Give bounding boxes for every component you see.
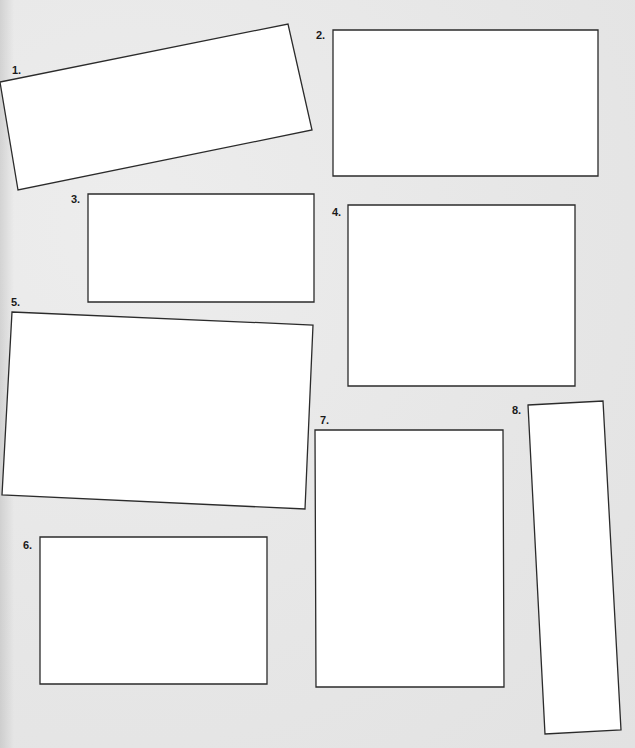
box-outline[interactable]: [0, 24, 312, 190]
box-number-label: 7.: [320, 414, 329, 426]
box-outline[interactable]: [315, 430, 504, 687]
answer-box-4[interactable]: 4.: [332, 205, 575, 386]
answer-box-7[interactable]: 7.: [315, 414, 504, 687]
box-outline[interactable]: [40, 537, 267, 684]
worksheet-canvas: 1. 2. 3. 4. 5. 6. 7. 8.: [0, 0, 635, 748]
answer-box-1[interactable]: 1.: [0, 24, 312, 190]
answer-box-5[interactable]: 5.: [2, 296, 313, 509]
box-outline[interactable]: [528, 401, 621, 734]
box-outline[interactable]: [348, 205, 575, 386]
box-outline[interactable]: [88, 194, 314, 302]
answer-box-8[interactable]: 8.: [512, 401, 621, 734]
box-number-label: 6.: [23, 539, 32, 551]
box-number-label: 3.: [71, 193, 80, 205]
worksheet-page: 1. 2. 3. 4. 5. 6. 7. 8.: [0, 0, 635, 748]
box-number-label: 5.: [11, 296, 20, 308]
box-number-label: 4.: [332, 206, 341, 218]
answer-box-6[interactable]: 6.: [23, 537, 267, 684]
box-outline[interactable]: [333, 30, 598, 176]
box-number-label: 8.: [512, 404, 521, 416]
answer-box-2[interactable]: 2.: [316, 29, 598, 176]
box-number-label: 1.: [12, 64, 21, 76]
box-number-label: 2.: [316, 29, 325, 41]
answer-box-3[interactable]: 3.: [71, 193, 314, 302]
box-outline[interactable]: [2, 312, 313, 509]
